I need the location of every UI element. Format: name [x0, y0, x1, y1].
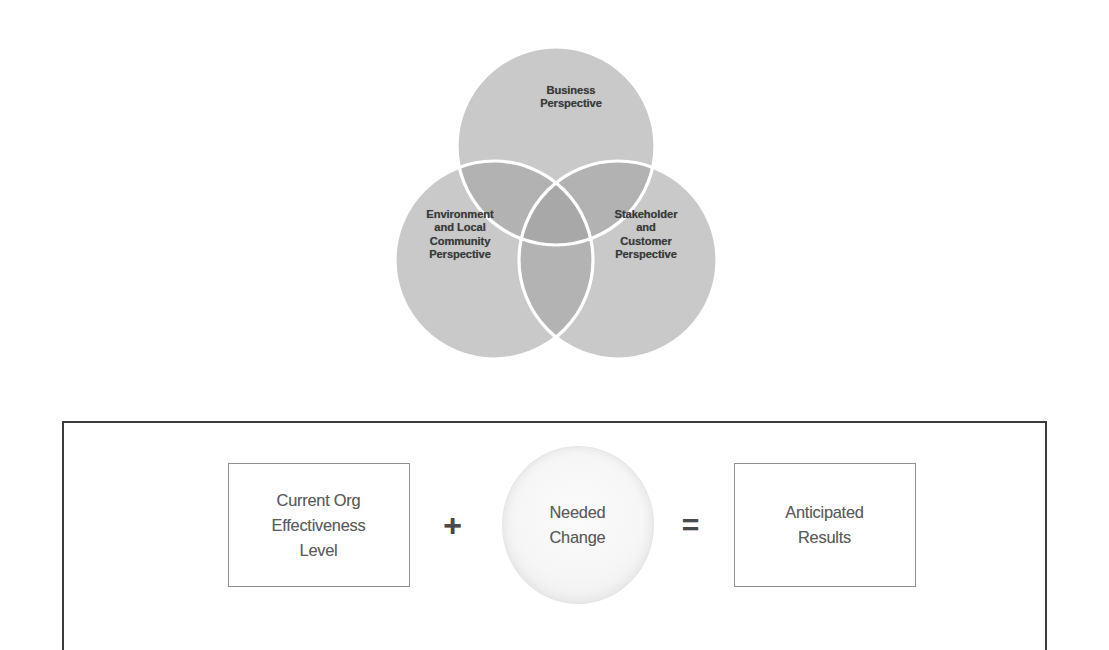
three-perspectives-venn-diagram: Business Perspective Environment and Loc… [386, 36, 726, 372]
equation-term-needed-change-label: Needed Change [550, 500, 606, 550]
change-equation-row: Current Org Effectiveness Level + Needed… [64, 423, 1049, 627]
plus-operator-icon: + [410, 509, 496, 541]
venn-circles-graphic [386, 36, 726, 372]
equation-term-anticipated-results-label: Anticipated Results [785, 500, 863, 550]
equation-term-anticipated-results: Anticipated Results [734, 463, 916, 587]
diagram-page: Business Perspective Environment and Loc… [0, 0, 1109, 650]
equation-term-current-state-label: Current Org Effectiveness Level [272, 488, 366, 563]
equals-operator-icon: = [648, 510, 734, 540]
change-equation-frame: Current Org Effectiveness Level + Needed… [62, 421, 1047, 650]
equation-term-needed-change: Needed Change [502, 446, 654, 604]
equation-term-current-org-effectiveness-level: Current Org Effectiveness Level [228, 463, 410, 587]
